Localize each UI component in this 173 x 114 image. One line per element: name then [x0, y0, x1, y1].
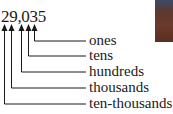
thousands-arrow [12, 27, 87, 88]
cropped-photo [155, 0, 173, 42]
label-ones: ones [89, 33, 117, 48]
label-tens: tens [89, 48, 113, 63]
ones-arrow [35, 27, 87, 41]
label-thousands: thousands [89, 80, 149, 95]
label-hundreds: hundreds [89, 64, 144, 79]
hundreds-arrow [22, 27, 87, 72]
label-ten-thousands: ten-thousands [89, 96, 172, 111]
ten-thousands-arrow [5, 27, 87, 104]
